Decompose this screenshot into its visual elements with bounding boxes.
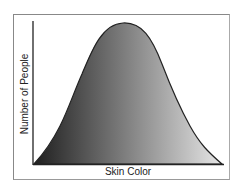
x-axis-label: Skin Color [0,166,242,177]
distribution-area [34,23,222,164]
y-axis-label: Number of People [19,54,30,135]
bell-curve-chart [0,0,242,192]
